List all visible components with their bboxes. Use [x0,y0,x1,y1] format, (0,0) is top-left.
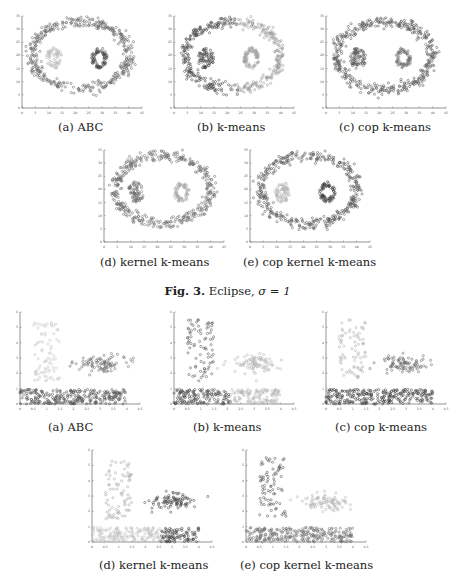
data-point [270,361,272,363]
data-point [352,527,354,529]
x-tick-label: 10 [129,245,133,249]
data-point [246,18,248,20]
data-point [26,395,28,397]
data-point [85,360,87,362]
fig4-scatter-kernel-kmeans: 00.511.522.533.544.50123456 [78,446,218,554]
data-point [279,368,281,370]
data-point [127,536,129,538]
data-point [96,527,98,529]
data-point [252,67,254,69]
data-point [66,82,68,84]
data-point [132,357,134,359]
y-tick-label: 15 [244,201,248,205]
data-point [210,356,212,358]
data-point [222,93,224,95]
data-point [280,219,282,221]
fig4-panel-c: 00.511.522.533.544.50123456 [312,308,452,416]
data-point [216,92,218,94]
x-tick-label: 5 [262,245,264,249]
y-tick-label: 35 [98,148,102,152]
data-point [342,70,344,72]
data-point [36,59,38,61]
y-tick-label: 5 [18,93,20,97]
cluster-0 [25,16,136,97]
data-point [360,88,362,90]
data-point [107,499,109,501]
data-point [349,504,351,506]
data-point [343,213,345,215]
data-point [197,325,199,327]
data-point [134,63,136,65]
data-point [192,209,194,211]
data-point [271,461,273,463]
data-point [239,19,241,21]
data-point [194,531,196,533]
x-tick-label: 40 [431,111,435,115]
data-point [191,395,193,397]
data-point [266,365,268,367]
cluster-0 [252,150,363,231]
data-point [407,357,409,359]
data-point [268,358,270,360]
data-point [258,182,260,184]
data-point [389,24,391,26]
data-point [95,21,97,23]
data-point [311,494,313,496]
fig4-scatter-cop-kernel-kmeans: 00.511.522.533.544.50123456 [232,446,372,554]
data-point [189,501,191,503]
data-point [180,52,182,54]
data-point [126,464,128,466]
data-point [236,92,238,94]
y-tick-label: 4 [16,341,18,345]
data-point [358,86,360,88]
data-point [56,339,58,341]
data-point [83,394,85,396]
data-point [321,538,323,540]
data-point [46,323,48,325]
y-tick-label: 35 [320,14,324,18]
data-point [261,503,263,505]
data-point [159,528,161,530]
data-point [56,78,58,80]
x-tick-label: 4 [198,545,200,549]
fig3-caption-d: (d) kernel k-means [100,255,209,269]
data-point [296,496,298,498]
x-tick-label: 35 [265,111,269,115]
data-point [191,531,193,533]
data-point [115,79,117,81]
data-point [39,50,41,52]
data-point [338,531,340,533]
data-point [257,23,259,25]
data-point [123,167,125,169]
data-point [97,17,99,19]
data-point [204,77,206,79]
fig3-panel-e: 05101520253035404505101520253035 [236,146,376,254]
data-point [320,153,322,155]
data-point [270,541,272,543]
fig3-panel-a: 05101520253035404505101520253035 [8,12,148,120]
data-point [167,534,169,536]
y-tick-label: 5 [16,325,18,329]
data-point [385,25,387,27]
data-point [189,158,191,160]
data-point [419,388,421,390]
data-point [358,332,360,334]
data-point [275,501,277,503]
x-tick-label: 2.5 [390,407,395,411]
x-tick-label: 3.5 [111,407,116,411]
data-point [114,472,116,474]
data-point [211,325,213,327]
x-tick-label: 2 [298,545,300,549]
data-point [205,398,207,400]
data-point [123,397,125,399]
data-point [422,37,424,39]
data-point [216,368,218,370]
data-point [263,25,265,27]
data-point [349,531,351,533]
data-point [359,92,361,94]
data-point [55,367,57,369]
data-point [170,161,172,163]
data-point [229,16,231,18]
x-tick-label: 45 [368,245,372,249]
data-point [436,46,438,48]
